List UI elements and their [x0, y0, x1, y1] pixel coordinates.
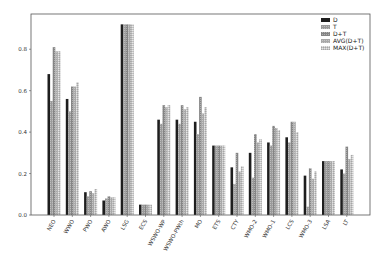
bar-texture: [314, 171, 317, 215]
bar-texture: [199, 97, 202, 215]
bar-texture: [160, 124, 163, 215]
bar-texture: [165, 107, 168, 215]
bar: [102, 200, 105, 215]
bar-texture: [233, 184, 236, 215]
bar-group-ets: [212, 146, 225, 215]
x-tick-label: WMO-2: [243, 219, 258, 239]
bar-texture: [217, 146, 220, 215]
legend: DTD+TAVG(D+T)MAX(D+T): [321, 16, 364, 51]
bar-texture: [351, 155, 354, 215]
bar-texture: [95, 189, 98, 215]
bar-texture: [257, 142, 260, 215]
bar-texture: [123, 24, 126, 215]
bar-texture: [181, 105, 184, 215]
x-tick-label: LSA: [321, 218, 332, 230]
bar-group-wswo-wp: [157, 105, 170, 215]
bar-texture: [312, 179, 315, 215]
bar-group-mo: [194, 97, 207, 215]
bar: [48, 74, 51, 215]
bar-texture: [332, 161, 335, 215]
bar: [322, 161, 325, 215]
bar-texture: [306, 207, 309, 215]
bar-texture: [149, 205, 152, 215]
bar: [212, 146, 215, 215]
bar-group-neo: [48, 47, 61, 215]
bar: [285, 137, 288, 215]
bar-texture: [254, 134, 257, 215]
bar-texture: [108, 196, 111, 215]
bar-texture: [58, 51, 61, 215]
bar-texture: [92, 193, 95, 215]
x-tick-label: LCS: [284, 218, 295, 230]
legend-swatch: [321, 18, 330, 22]
bar-texture: [144, 205, 147, 215]
bar-texture: [293, 122, 296, 215]
bar-texture: [89, 191, 92, 215]
bar-texture: [330, 161, 333, 215]
bar-texture: [288, 142, 291, 215]
bar-texture: [272, 126, 275, 215]
legend-label: D+T: [333, 30, 347, 37]
legend-label: MAX(D+T): [333, 44, 364, 51]
x-tick-label: WMO-3: [298, 218, 314, 239]
x-tick-label: ECS: [138, 218, 149, 231]
bar-texture: [163, 105, 166, 215]
bar-texture: [270, 146, 273, 215]
bar-texture: [50, 101, 53, 215]
bar-texture: [348, 159, 351, 215]
legend-swatch-texture: [321, 25, 330, 29]
bar: [66, 99, 69, 215]
x-tick-label: LT: [342, 218, 350, 226]
bar-texture: [215, 146, 218, 215]
bar: [84, 192, 87, 215]
bar-texture: [55, 51, 58, 215]
x-tick-label: NEO: [46, 218, 57, 232]
bar-group-lsa: [322, 161, 335, 215]
bar-group-pwo: [84, 189, 97, 215]
bar-texture: [325, 161, 328, 215]
x-tick-label: WSWO-WP: [147, 218, 167, 247]
bar-texture: [178, 124, 181, 215]
legend-swatch-texture: [321, 32, 330, 36]
bar-texture: [68, 111, 71, 215]
x-tick-label: CTY: [229, 218, 240, 231]
bar-texture: [113, 197, 116, 215]
bar-texture: [241, 166, 244, 215]
x-tick-label: MO: [194, 218, 204, 229]
bar-texture: [183, 109, 186, 215]
bars-layer: [48, 24, 354, 215]
legend-label: D: [333, 16, 338, 23]
bar-group-lt: [340, 147, 353, 215]
y-tick-label: 0.8: [18, 46, 27, 52]
bar-texture: [275, 128, 278, 215]
x-tick-label: LSG: [119, 219, 130, 231]
bar-texture: [126, 24, 129, 215]
bar-texture: [74, 87, 77, 215]
bar-texture: [129, 24, 132, 215]
bar-group-cty: [231, 153, 244, 215]
bar-group-wmo-2: [249, 134, 262, 215]
legend-label: AVG(D+T): [333, 37, 363, 44]
bar-group-wmo-3: [304, 168, 317, 215]
bar-texture: [186, 107, 189, 215]
legend-label: T: [332, 23, 337, 30]
bar: [194, 122, 197, 215]
grouped-bar-chart: 0.00.20.40.60.8 NEOWWOPWOAWOLSGECSWSWO-W…: [0, 0, 389, 261]
bar-texture: [105, 198, 108, 215]
bar-texture: [131, 24, 134, 215]
bar: [249, 153, 252, 215]
bar-texture: [202, 113, 205, 215]
bar-texture: [220, 146, 223, 215]
bar-texture: [327, 161, 330, 215]
bar-texture: [346, 147, 349, 215]
bar-group-wswo-pwth: [176, 105, 189, 215]
bar-texture: [223, 146, 226, 215]
bar-texture: [343, 174, 346, 215]
bar-texture: [251, 178, 254, 215]
bar-group-wmo-1: [267, 126, 280, 215]
bar-texture: [204, 107, 207, 215]
bar-texture: [236, 153, 239, 215]
bar-texture: [87, 196, 90, 215]
x-tick-label: ETS: [211, 218, 222, 230]
bar-texture: [197, 134, 200, 215]
